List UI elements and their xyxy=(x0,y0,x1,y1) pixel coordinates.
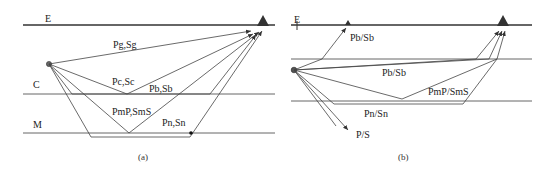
label-e-a: E xyxy=(45,13,51,24)
panel-a: E C M Pg,Sg Pc,Sc Pb,Sb PmP,SmS Pn,Sn (a… xyxy=(23,13,275,162)
seismic-ray-diagram: E C M Pg,Sg Pc,Sc Pb,Sb PmP,SmS Pn,Sn (a… xyxy=(0,0,552,174)
label-m-a: M xyxy=(33,119,42,130)
phase-label-pb-sb: Pb/Sb xyxy=(382,67,406,78)
ray-p-s-down xyxy=(294,70,348,130)
small-station-icon xyxy=(345,20,351,25)
caption-a: (a) xyxy=(138,152,148,162)
station-triangle-icon xyxy=(497,15,509,26)
panel-b: E Pb/Sb Pb/Sb PmP/SmS Pn/Sn P/S (b) xyxy=(291,14,532,162)
caption-b: (b) xyxy=(398,152,409,162)
ray-pg-sg xyxy=(49,31,251,64)
ray-pb-sb-up xyxy=(294,28,346,70)
label-c-a: C xyxy=(33,79,40,90)
ray-p-s-down-2 xyxy=(294,70,336,126)
phase-label-pmp-sms: PmP/SmS xyxy=(428,86,469,97)
phase-label-pn-sn: Pn,Sn xyxy=(162,117,186,128)
phase-label-p-s: P/S xyxy=(356,129,370,140)
phase-label-pb-sb-up: Pb/Sb xyxy=(350,32,374,43)
ray-pb-sb-2 xyxy=(294,31,502,70)
moho-point-icon xyxy=(189,131,193,135)
phase-label-pc-sc: Pc,Sc xyxy=(112,76,135,87)
ray-pmp-sms xyxy=(294,31,505,99)
phase-label-pb-sb: Pb,Sb xyxy=(149,83,173,94)
station-triangle-icon xyxy=(257,15,269,26)
phase-label-pn-sn: Pn/Sn xyxy=(364,108,388,119)
phase-label-pmp-sms: PmP,SmS xyxy=(112,106,151,117)
phase-label-pg-sg: Pg,Sg xyxy=(113,39,137,50)
